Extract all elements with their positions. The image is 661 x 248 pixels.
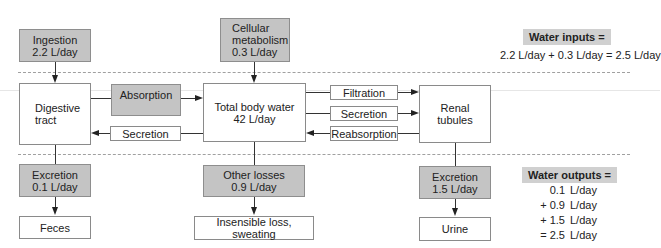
secretion-gi-label: Secretion (122, 128, 168, 140)
inputs-separator (18, 72, 630, 73)
tbw-to-other-losses-line (254, 142, 255, 165)
ingestion-arrowhead-icon (52, 75, 58, 83)
secretion-renal-line-out (398, 113, 412, 114)
filtration-box: Filtration (330, 85, 398, 100)
output-unit: L/day (570, 198, 597, 212)
water-inputs-title: Water inputs = (523, 29, 611, 45)
cellular-metabolism-label-2: metabolism (232, 34, 288, 46)
water-outputs-row: 0.1L/day (531, 183, 597, 197)
renal-to-excretion-line (455, 143, 456, 166)
secretion-gi-line-out (99, 133, 110, 134)
excretion-gi-arrowhead-icon (52, 207, 58, 215)
water-outputs-title: Water outputs = (522, 167, 617, 183)
cellular-metabolism-box: Cellularmetabolism0.3 L/day (220, 18, 290, 62)
excretion-renal-arrowhead-icon (452, 208, 458, 216)
filtration-line-in (306, 92, 330, 93)
filtration-arrowhead-icon (411, 89, 419, 95)
other-losses-box: Other losses0.9 L/day (203, 165, 305, 197)
ingestion-box: Ingestion2.2 L/day (19, 29, 91, 62)
feces-label: Feces (40, 222, 70, 234)
excretion-gi-value: 0.1 L/day (32, 181, 78, 193)
insensible-loss-box: Insensible loss, sweating (194, 216, 314, 240)
digestive-tract-label-1: Digestive (35, 102, 80, 114)
total-body-water-label: Total body water (214, 101, 294, 113)
output-value: 0.1 (531, 183, 565, 197)
reabsorption-arrowhead-icon (306, 130, 314, 136)
secretion-renal-arrowhead-icon (411, 110, 419, 116)
absorption-arrowhead-icon (195, 95, 203, 101)
reabsorption-line-in (398, 133, 419, 134)
total-body-water-box: Total body water42 L/day (203, 83, 306, 142)
reabsorption-box: Reabsorption (330, 126, 398, 141)
metabolism-arrow-line (254, 62, 255, 76)
excretion-gi-label: Excretion (32, 169, 78, 181)
urine-box: Urine (419, 217, 491, 241)
other-losses-value: 0.9 L/day (223, 181, 285, 193)
renal-tubules-label-2: tubules (437, 114, 472, 126)
renal-tubules-label-1: Renal (437, 102, 472, 114)
excretion-gi-box: Excretion0.1 L/day (19, 164, 91, 197)
water-outputs-row: = 2.5L/day (531, 228, 597, 242)
filtration-line-out (398, 92, 412, 93)
metabolism-arrowhead-icon (251, 75, 257, 83)
output-value: = 2.5 (531, 228, 565, 242)
reabsorption-label: Reabsorption (331, 128, 396, 140)
cellular-metabolism-label-1: Cellular (232, 22, 288, 34)
reabsorption-line-out (314, 133, 330, 134)
excretion-renal-value: 1.5 L/day (432, 183, 478, 195)
cellular-metabolism-value: 0.3 L/day (232, 46, 288, 58)
output-unit: L/day (570, 183, 597, 197)
output-value: + 0.9 (531, 198, 565, 212)
ingestion-label: Ingestion (32, 34, 77, 46)
excretion-renal-box: Excretion1.5 L/day (419, 166, 491, 199)
secretion-renal-label: Secretion (341, 108, 387, 120)
water-outputs-row: + 1.5L/day (531, 213, 597, 227)
output-unit: L/day (570, 213, 597, 227)
output-value: + 1.5 (531, 213, 565, 227)
absorption-box: Absorption (111, 84, 181, 116)
secretion-gi-arrowhead-icon (91, 130, 99, 136)
excretion-renal-label: Excretion (432, 171, 478, 183)
other-losses-arrowhead-icon (251, 207, 257, 215)
absorption-line-in (91, 98, 111, 99)
absorption-label: Absorption (120, 89, 173, 101)
feces-box: Feces (19, 216, 91, 239)
water-inputs-equation: 2.2 L/day + 0.3 L/day = 2.5 L/day (500, 48, 661, 62)
urine-label: Urine (442, 223, 468, 235)
digestive-tract-box: Digestivetract (19, 83, 91, 145)
ingestion-arrow-line (55, 62, 56, 76)
total-body-water-value: 42 L/day (214, 113, 294, 125)
ingestion-value: 2.2 L/day (32, 46, 77, 58)
filtration-label: Filtration (343, 87, 385, 99)
outputs-separator (18, 154, 630, 155)
digestive-tract-label-2: tract (35, 114, 80, 126)
digestive-to-excretion-line (55, 145, 56, 164)
secretion-renal-box: Secretion (330, 106, 398, 121)
renal-tubules-box: Renaltubules (419, 85, 491, 143)
secretion-renal-line-in (306, 113, 330, 114)
secretion-gi-box: Secretion (110, 126, 181, 141)
secretion-gi-line-in (181, 133, 203, 134)
insensible-loss-label: Insensible loss, sweating (195, 216, 313, 240)
output-unit: L/day (570, 228, 597, 242)
water-outputs-row: + 0.9L/day (531, 198, 597, 212)
other-losses-label: Other losses (223, 169, 285, 181)
